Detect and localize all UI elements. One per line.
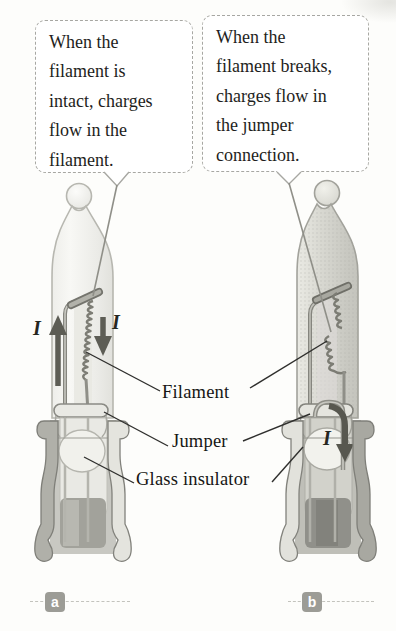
jumper-leader-right [243, 414, 310, 441]
bulb-a [35, 184, 131, 562]
glass-insulator-label: Glass insulator [136, 469, 249, 490]
bulb-a-current-up-arrow [49, 315, 67, 386]
bulb-a-filament-support [71, 292, 99, 305]
bulb-b-base-right-wall [353, 421, 376, 561]
jumper-label: Jumper [172, 431, 228, 452]
current-symbol-a-right: I [112, 311, 120, 334]
bulb-b-filament-lower-piece [325, 336, 346, 373]
panel-b-badge: b [302, 592, 322, 612]
insulator-leader-right [272, 447, 303, 482]
bulb-b-glass-stem [317, 300, 337, 412]
bulb-a-glass-stem [74, 300, 92, 412]
figure-holiday-bulbs: When the filament is intact, charges flo… [0, 0, 396, 631]
bulb-a-base [35, 416, 131, 561]
bulb-a-jumper-ring [54, 404, 108, 417]
panel-a-badge: a [45, 592, 65, 612]
bulb-a-glass-envelope [52, 206, 113, 418]
current-symbol-a-left: I [33, 317, 41, 340]
bulb-a-tip-ball [67, 184, 92, 209]
callout-a-line-3: intact, charges [49, 87, 188, 116]
filament-leader-right [250, 341, 327, 388]
bulb-a-filament-coil [83, 301, 93, 380]
callout-bulb-b: When the filament breaks, charges flow i… [202, 15, 369, 172]
callout-b-line-1: When the [216, 23, 364, 52]
callout-bulb-a: When the filament is intact, charges flo… [35, 20, 193, 173]
callout-a-leader-line [93, 185, 117, 296]
jumper-leader-left [104, 412, 168, 446]
callout-b-tail [277, 172, 301, 184]
callout-a-line-2: filament is [49, 57, 188, 86]
bulb-a-current-down-arrow [94, 317, 112, 356]
bulb-b-lead-wire [310, 301, 318, 520]
filament-label: Filament [162, 382, 229, 403]
callout-b-line-2: filament breaks, [216, 52, 364, 81]
bulb-b-jumper-ring [299, 404, 353, 417]
bulb-b-current-arrow [329, 406, 354, 462]
insulator-leader-left [84, 457, 134, 483]
bulb-a-base-right-wall [108, 421, 131, 561]
callout-a-line-5: filament. [49, 146, 188, 175]
current-symbol-b: I [323, 427, 331, 450]
panel-tag-a: a [30, 592, 130, 612]
callout-b-leader-line [289, 183, 331, 332]
callout-b-line-4: the jumper [216, 111, 364, 140]
panel-b-dashed-line [288, 601, 374, 602]
bulb-b-base [280, 402, 376, 561]
bulb-b-filament-upper-piece [333, 293, 342, 328]
bulb-a-lower-lead [86, 379, 88, 412]
panel-tag-b: b [288, 592, 374, 612]
bulb-a-base-left-wall [35, 421, 58, 561]
bulb-b-glass-envelope [297, 204, 358, 418]
callout-b-line-5: connection. [216, 141, 364, 170]
callout-a-line-4: flow in the [49, 116, 188, 145]
filament-leader-left [86, 352, 160, 391]
bulb-b-base-left-wall [280, 421, 303, 561]
bulb-a-glass-insulator [59, 430, 105, 472]
bulb-b-filament-support [316, 286, 348, 300]
callout-a-line-1: When the [49, 28, 188, 57]
callout-b-line-3: charges flow in [216, 82, 364, 111]
bulb-b-tip-ball [315, 181, 340, 206]
bulb-b [280, 181, 376, 562]
bulb-a-lead-wire [65, 302, 73, 520]
bulb-a-glass-tube [60, 418, 107, 520]
